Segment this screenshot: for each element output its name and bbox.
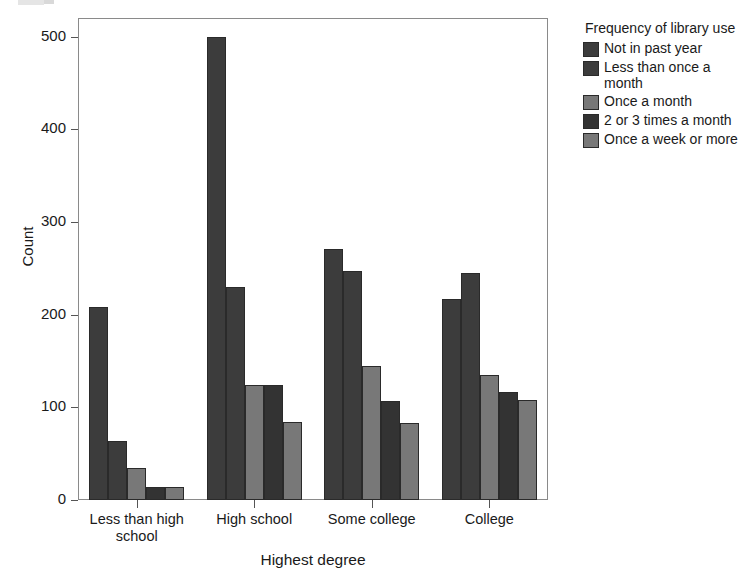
bar bbox=[343, 271, 362, 500]
bar bbox=[226, 287, 245, 500]
bar bbox=[146, 487, 165, 500]
bar bbox=[245, 385, 264, 500]
legend-item: Less than once a month bbox=[583, 59, 753, 91]
x-axis-tick-label: Less than high school bbox=[78, 511, 196, 545]
x-axis-tick-mark bbox=[489, 500, 490, 508]
bar-chart-figure: Count 5004003002001000 Less than high sc… bbox=[0, 0, 753, 578]
bar bbox=[165, 487, 184, 500]
bar bbox=[461, 273, 480, 500]
legend-swatch bbox=[583, 95, 599, 110]
x-axis-tick-label: College bbox=[414, 511, 564, 528]
legend-swatch bbox=[583, 42, 599, 57]
bar bbox=[127, 468, 146, 500]
legend-item-label: 2 or 3 times a month bbox=[604, 112, 732, 128]
bar bbox=[499, 392, 518, 500]
legend-item-label: Once a week or more bbox=[604, 131, 738, 147]
bar bbox=[381, 401, 400, 500]
legend-item: Not in past year bbox=[583, 40, 753, 57]
legend-item-label: Not in past year bbox=[604, 40, 702, 56]
bar bbox=[400, 423, 419, 500]
legend-swatch bbox=[583, 114, 599, 129]
legend-item: Once a week or more bbox=[583, 131, 753, 148]
bar bbox=[207, 37, 226, 500]
bar bbox=[89, 307, 108, 500]
bar bbox=[362, 366, 381, 500]
legend-items: Not in past yearLess than once a monthOn… bbox=[583, 40, 753, 148]
legend-item-label: Less than once a month bbox=[604, 59, 753, 91]
x-axis-title: Highest degree bbox=[78, 551, 548, 569]
legend-item: Once a month bbox=[583, 93, 753, 110]
x-axis-tick-mark bbox=[372, 500, 373, 508]
bar bbox=[518, 400, 537, 500]
bar bbox=[324, 249, 343, 500]
x-axis-tick-mark bbox=[254, 500, 255, 508]
bar bbox=[480, 375, 499, 500]
legend-item: 2 or 3 times a month bbox=[583, 112, 753, 129]
legend-swatch bbox=[583, 61, 599, 76]
bar bbox=[283, 422, 302, 500]
bar bbox=[108, 441, 127, 500]
legend-item-label: Once a month bbox=[604, 93, 692, 109]
bar bbox=[264, 385, 283, 500]
legend-swatch bbox=[583, 133, 599, 148]
bar bbox=[442, 299, 461, 500]
x-axis-tick-mark bbox=[137, 500, 138, 508]
legend: Frequency of library use Not in past yea… bbox=[583, 20, 753, 150]
legend-title: Frequency of library use bbox=[585, 20, 753, 36]
